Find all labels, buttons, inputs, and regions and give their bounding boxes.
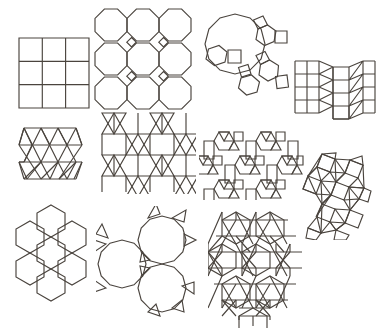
- star-triangle-tiling-svg: [96, 112, 196, 194]
- star-triangle-tiling-lines: [102, 113, 196, 194]
- figure-star-triangle-tiling: [96, 112, 196, 194]
- elongated-triangular-tiling-lines: [295, 61, 375, 119]
- triangular-tiling-lines: [19, 128, 82, 179]
- figure-rhombitrihexagonal-tiling: [199, 126, 305, 200]
- figure-elongated-triangular-tiling: [293, 55, 377, 129]
- trihexagonal-triangle-tiling-lines: [208, 212, 302, 328]
- hexagonal-tiling-svg: [10, 203, 92, 309]
- truncated-hexagonal-cluster-lines: [205, 14, 289, 95]
- snub-square-tiling-svg: [302, 152, 372, 240]
- tiling-plate: [0, 0, 378, 334]
- rhombitrihexagonal-tiling-lines: [199, 132, 303, 200]
- triangular-tiling-svg: [18, 120, 94, 196]
- truncated-hexagonal-cluster-svg: [203, 8, 291, 114]
- truncated-hexagonal-tiling-lines: [96, 206, 196, 316]
- figure-square-tiling: [18, 37, 90, 109]
- square-tiling-lines: [19, 38, 89, 108]
- square-tiling-svg: [18, 37, 90, 109]
- figure-snub-square-tiling: [302, 152, 372, 240]
- rhombitrihexagonal-tiling-svg: [199, 126, 305, 200]
- elongated-triangular-tiling-svg: [293, 55, 377, 129]
- figure-hexagonal-tiling: [10, 203, 92, 309]
- figure-triangular-tiling: [18, 120, 94, 196]
- trihexagonal-triangle-tiling-svg: [208, 208, 302, 328]
- figure-truncated-square-tiling: [94, 8, 192, 110]
- hexagonal-tiling-lines: [16, 205, 86, 301]
- figure-truncated-hexagonal-tiling: [96, 206, 204, 318]
- figure-trihexagonal-triangle-tiling: [208, 208, 302, 328]
- truncated-hexagonal-tiling-svg: [96, 206, 204, 318]
- snub-square-tiling-lines: [303, 153, 371, 240]
- truncated-square-tiling-lines: [95, 9, 191, 109]
- figure-truncated-hexagonal-cluster: [203, 8, 291, 114]
- truncated-square-tiling-svg: [94, 8, 192, 110]
